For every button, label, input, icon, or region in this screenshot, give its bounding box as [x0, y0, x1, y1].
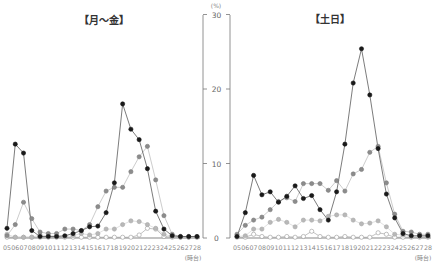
- x-tick-label: 07: [250, 244, 258, 251]
- series-black-point: [79, 228, 83, 232]
- series-black-point: [129, 127, 133, 131]
- series-dark-gray-point: [5, 234, 9, 238]
- series-dark-gray-point: [368, 150, 372, 154]
- series-black-point: [285, 194, 289, 198]
- series-light-gray-point: [30, 235, 34, 239]
- series-dark-gray-point: [351, 172, 355, 176]
- x-tick-label: 22: [374, 244, 382, 251]
- series-dark-gray-point: [301, 182, 305, 186]
- series-light-gray-point: [104, 227, 108, 231]
- series-black-point: [301, 196, 305, 200]
- series-light-gray-point: [285, 220, 289, 224]
- series-light-gray-point: [129, 219, 133, 223]
- x-tick-label: 09: [266, 244, 274, 251]
- x-tick-label: 16: [94, 244, 102, 251]
- series-black-point: [137, 138, 141, 142]
- x-tick-label: 19: [349, 244, 357, 251]
- series-white-point: [318, 234, 322, 238]
- x-tick-label: 16: [324, 244, 332, 251]
- series-black-point: [235, 234, 239, 238]
- x-tick-label: 20: [127, 244, 135, 251]
- series-light-gray-point: [145, 222, 149, 226]
- x-tick-label: 12: [61, 244, 69, 251]
- series-white-point: [104, 235, 108, 239]
- series-dark-gray-point: [384, 181, 388, 185]
- x-tick-label: 05: [3, 244, 11, 251]
- x-tick-label: 18: [341, 244, 349, 251]
- series-black-line: [7, 104, 197, 237]
- left-x-axis: 0506070809101112131415161718192021222324…: [3, 244, 201, 251]
- right-x-axis: 0506070809101112131415161718192021222324…: [233, 244, 432, 251]
- x-tick-label: 06: [11, 244, 19, 251]
- series-light-gray-line: [237, 215, 428, 237]
- series-black-point: [112, 181, 116, 185]
- series-light-gray-point: [343, 213, 347, 217]
- series-white-point: [335, 235, 339, 239]
- x-tick-label: 07: [20, 244, 28, 251]
- series-light-gray-point: [268, 220, 272, 224]
- series-black-point: [5, 226, 9, 230]
- series-dark-gray-point: [243, 223, 247, 227]
- series-white-point: [293, 235, 297, 239]
- x-tick-label: 22: [143, 244, 151, 251]
- series-black-point: [393, 216, 397, 220]
- x-tick-label: 26: [176, 244, 184, 251]
- series-white-point: [351, 235, 355, 239]
- series-black-point: [88, 225, 92, 229]
- x-tick-label: 27: [185, 244, 193, 251]
- series-white-point: [129, 235, 133, 239]
- x-tick-label: 25: [399, 244, 407, 251]
- series-white-point: [276, 235, 280, 239]
- series-dark-gray-point: [268, 208, 272, 212]
- series-dark-gray-line: [7, 146, 197, 236]
- series-black-point: [162, 227, 166, 231]
- series-light-gray-point: [13, 235, 17, 239]
- series-white-line: [237, 231, 428, 237]
- series-black-point: [252, 173, 256, 177]
- series-light-gray-point: [301, 218, 305, 222]
- series-light-gray-point: [243, 234, 247, 238]
- series-white-point: [137, 233, 141, 237]
- series-white-point: [310, 229, 314, 233]
- series-black-point: [293, 184, 297, 188]
- series-light-gray-point: [260, 227, 264, 231]
- series-dark-gray-point: [154, 178, 158, 182]
- x-tick-label: 05: [233, 244, 241, 251]
- series-dark-gray-line: [237, 146, 428, 234]
- series-black-point: [310, 193, 314, 197]
- x-tick-label: 26: [407, 244, 415, 251]
- series-light-gray-line: [7, 221, 197, 237]
- x-tick-label: 15: [86, 244, 94, 251]
- series-black-point: [104, 211, 108, 215]
- x-tick-label: 11: [283, 244, 291, 251]
- series-dark-gray-point: [162, 214, 166, 218]
- series-black-point: [121, 102, 125, 106]
- series-dark-gray-point: [30, 217, 34, 221]
- series-light-gray-point: [252, 227, 256, 231]
- x-tick-label: 14: [77, 244, 85, 251]
- series-black-point: [326, 218, 330, 222]
- right-x-unit: (時台): [415, 254, 432, 262]
- series-black-point: [170, 234, 174, 238]
- series-light-gray-point: [359, 222, 363, 226]
- series-black-point: [409, 234, 413, 238]
- series-dark-gray-point: [310, 182, 314, 186]
- series-dark-gray-point: [326, 188, 330, 192]
- series-black-point: [30, 228, 34, 232]
- series-dark-gray-point: [21, 200, 25, 204]
- x-tick-label: 17: [333, 244, 341, 251]
- x-tick-label: 13: [69, 244, 77, 251]
- series-black-point: [96, 224, 100, 228]
- x-tick-label: 24: [391, 244, 399, 251]
- series-white-point: [301, 234, 305, 238]
- y-axis-unit: (%): [211, 2, 221, 9]
- series-dark-gray-point: [38, 230, 42, 234]
- series-white-point: [112, 235, 116, 239]
- series-black-point: [351, 81, 355, 85]
- series-white-point: [359, 235, 363, 239]
- x-tick-label: 06: [241, 244, 249, 251]
- x-tick-label: 09: [36, 244, 44, 251]
- x-tick-label: 10: [274, 244, 282, 251]
- series-light-gray-point: [112, 227, 116, 231]
- series-black-point: [63, 234, 67, 238]
